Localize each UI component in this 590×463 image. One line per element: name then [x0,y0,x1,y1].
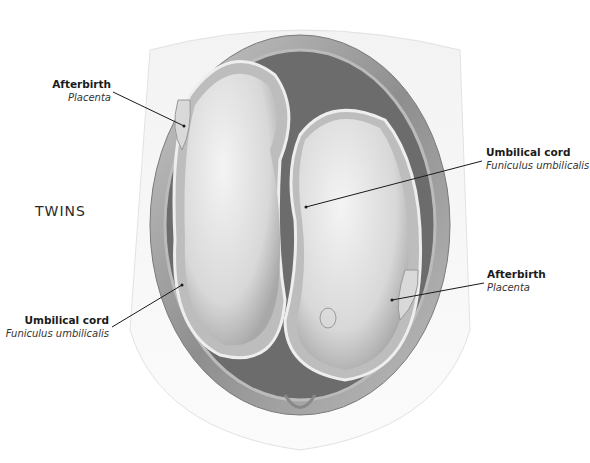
label-latin: Placenta [52,91,111,105]
twins-uterus-illustration [0,0,590,463]
label-latin: Funiculus umbilicalis [6,327,109,341]
label-umbilical-cord-right: Umbilical cord Funiculus umbilicalis [486,145,589,173]
leader-dot [391,299,394,302]
label-afterbirth-right: Afterbirth Placenta [487,267,546,295]
label-umbilical-cord-left: Umbilical cord Funiculus umbilicalis [6,313,109,341]
label-term: Umbilical cord [6,313,109,327]
leader-dot [181,284,184,287]
left-twin [184,74,280,346]
leader-dot [183,125,186,128]
label-term: Afterbirth [52,77,111,91]
label-afterbirth-left: Afterbirth Placenta [52,77,111,105]
diagram-title: TWINS [35,203,86,219]
right-twin [297,119,409,370]
label-latin: Placenta [487,281,546,295]
label-term: Afterbirth [487,267,546,281]
label-latin: Funiculus umbilicalis [486,159,589,173]
leader-dot [305,206,308,209]
label-term: Umbilical cord [486,145,589,159]
